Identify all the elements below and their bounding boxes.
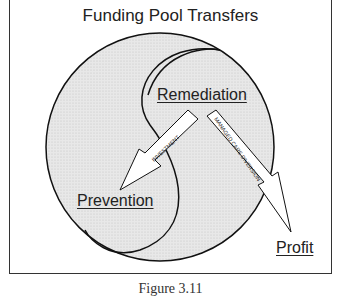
figure-caption: Figure 3.11 (0, 281, 341, 297)
prevention-label: Prevention (77, 192, 154, 210)
profit-label: Profit (276, 239, 313, 257)
figure-title: Funding Pool Transfers (0, 6, 341, 26)
remediation-label: Remediation (157, 86, 247, 104)
